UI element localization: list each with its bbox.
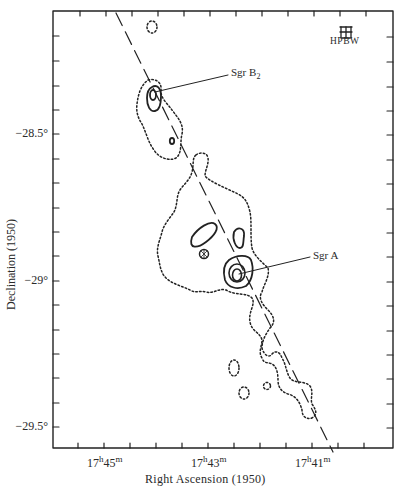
sgra-label: Sgr A — [313, 249, 338, 261]
star-blob-detail — [201, 250, 207, 258]
x-tick-minutes: 43 — [208, 456, 220, 470]
y-tick-label-28-5: −28.5° — [0, 126, 48, 141]
x-tick-m-sup: m — [220, 454, 227, 464]
sgrb2-leader — [155, 75, 228, 92]
lowest-contours — [137, 21, 316, 419]
x-tick-label-17h41m: 17h41m — [295, 454, 331, 471]
contour-map — [0, 0, 411, 495]
sgra-leader — [239, 257, 310, 274]
x-tick-m-sup: m — [116, 454, 123, 464]
x-tick-minutes: 41 — [312, 456, 324, 470]
x-tick-label-17h43m: 17h43m — [191, 454, 227, 471]
x-tick-hours: 17 — [295, 456, 307, 470]
x-ticks-top — [80, 11, 366, 16]
x-tick-label-17h45m: 17h45m — [87, 454, 123, 471]
x-ticks-bottom — [78, 443, 364, 448]
hpbw-label: HPBW — [330, 36, 359, 46]
sgrb2-label: Sgr B2 — [231, 66, 260, 81]
galactic-plane-line — [116, 13, 333, 452]
x-tick-hours: 17 — [191, 456, 203, 470]
y-ticks-right — [387, 37, 393, 428]
x-tick-hours: 17 — [87, 456, 99, 470]
y-tick-label-29-5: −29.5° — [0, 419, 48, 434]
sgrb2-label-main: Sgr B — [231, 66, 256, 78]
x-axis-label: Right Ascension (1950) — [145, 472, 266, 487]
x-tick-minutes: 45 — [104, 456, 116, 470]
y-ticks-left — [53, 36, 59, 427]
sgrb2-label-sub: 2 — [256, 72, 260, 81]
y-axis-label: Declination (1950) — [4, 219, 19, 310]
x-tick-m-sup: m — [324, 454, 331, 464]
